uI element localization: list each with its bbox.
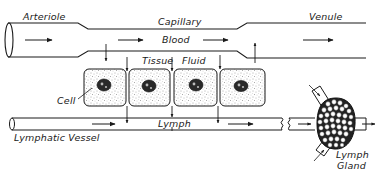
nucleus-1: [97, 79, 111, 91]
nucleus-3: [189, 79, 203, 91]
figure-caption: [60, 170, 320, 177]
lymphatic-opening: [10, 118, 15, 130]
arteriole-opening: [5, 23, 13, 57]
lymph-gland-label-line1: Lymph: [336, 150, 369, 160]
lymph-gland-label-line2: Gland: [337, 161, 366, 171]
exchange-arrows: [106, 43, 255, 71]
arteriole-label: Arteriole: [23, 12, 66, 22]
cell-label: Cell: [57, 96, 76, 106]
nucleus-2: [142, 80, 156, 92]
lymph-circulation-diagram: Arteriole Capillary Venule Blood Tissue …: [0, 0, 378, 177]
nucleus-4: [234, 81, 248, 92]
tissue-label: Tissue: [142, 56, 173, 66]
lymph-label: Lymph: [158, 119, 191, 129]
venule-label: Venule: [309, 12, 343, 22]
lymphatic-vessel-label: Lymphatic Vessel: [14, 133, 100, 143]
capillary-label: Capillary: [158, 17, 202, 27]
blood-label: Blood: [162, 35, 190, 45]
fluid-label: Fluid: [182, 56, 206, 66]
break-mark-right: [288, 118, 290, 130]
break-mark-left: [281, 118, 283, 130]
